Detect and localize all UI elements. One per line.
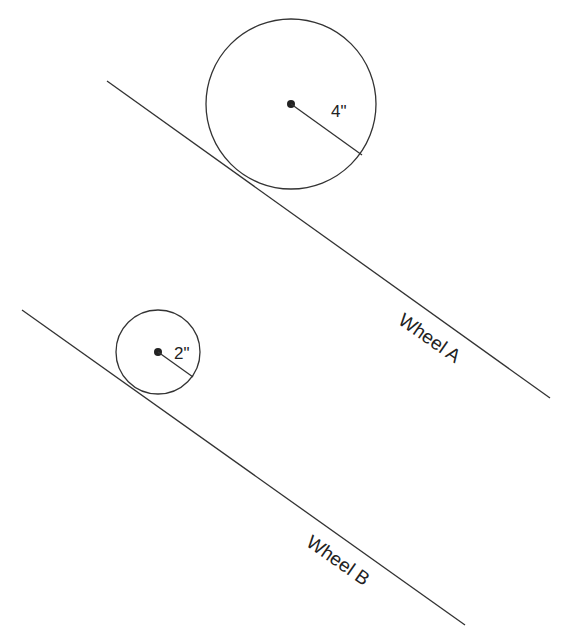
diagram-canvas: 4" Wheel A 2" Wheel B xyxy=(0,0,565,639)
wheel-b-label: Wheel B xyxy=(303,531,374,589)
wheel-a-radius-label: 4" xyxy=(331,102,347,121)
wheel-a-label: Wheel A xyxy=(395,309,465,367)
wheel-b-radius-label: 2" xyxy=(174,344,190,363)
wheel-b-group: 2" Wheel B xyxy=(22,310,465,625)
wheel-a-group: 4" Wheel A xyxy=(107,19,550,398)
wheel-b-incline xyxy=(22,310,465,625)
wheel-a-radius-line xyxy=(291,104,362,155)
wheels-on-incline-diagram: 4" Wheel A 2" Wheel B xyxy=(0,0,565,639)
